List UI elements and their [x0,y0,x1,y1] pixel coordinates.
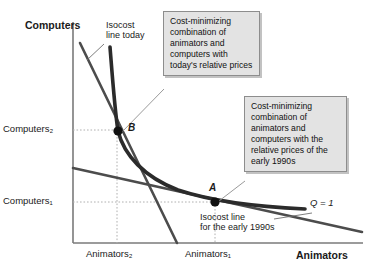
point-a-label: A [209,182,216,194]
point-b-marker [113,126,122,135]
point-a-marker [210,197,219,206]
leader-line-1990s [219,181,245,201]
y-tick-computers-1: Computers₁ [3,196,53,207]
leader-line-isocost-today-note [87,44,104,60]
point-b-label: B [128,122,135,134]
callout-today: Cost-minimizing combination of animators… [163,11,260,76]
isoquant-isocost-figure: Computers Animators Computers₂ Computers… [0,0,370,271]
y-axis-title: Computers [25,19,80,31]
isoquant-label: Q = 1 [310,198,334,209]
y-tick-computers-2: Computers₂ [3,124,53,135]
x-tick-animators-2: Animators₂ [86,249,132,260]
x-axis-title: Animators [296,249,348,261]
callout-1990s: Cost-minimizing combination of animators… [244,96,347,172]
x-tick-animators-1: Animators₁ [185,249,231,260]
note-isocost-1990s: Isocost line for the early 1990s [200,212,275,233]
note-isocost-today: Isocost line today [106,20,145,41]
